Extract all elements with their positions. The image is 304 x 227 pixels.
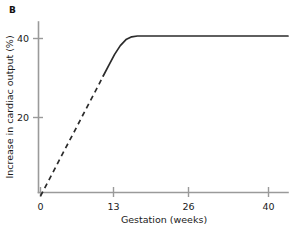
- x-tick-label-26: 26: [182, 201, 194, 212]
- x-tick-label-0: 0: [37, 201, 43, 212]
- series-segment-solid: [103, 36, 288, 76]
- figure-panel-b: B 40 20 0 13 26 40 Gestation (weeks) Inc…: [0, 0, 304, 227]
- series-segment-dashed: [41, 76, 104, 196]
- y-tick-label-40: 40: [17, 33, 29, 44]
- y-axis-title: Increase in cardiac output (%): [4, 35, 15, 178]
- chart-plot-area: 40 20 0 13 26 40 Gestation (weeks) Incre…: [0, 0, 304, 227]
- x-tick-label-13: 13: [107, 201, 119, 212]
- x-tick-label-40: 40: [262, 201, 274, 212]
- x-axis-title: Gestation (weeks): [121, 214, 207, 225]
- y-tick-label-20: 20: [17, 112, 29, 123]
